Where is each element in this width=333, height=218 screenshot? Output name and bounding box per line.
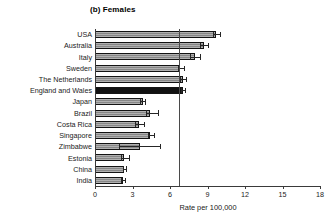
error-bar-cap-high [125, 178, 126, 183]
y-axis-line [95, 29, 96, 187]
error-bar-cap-high [145, 99, 146, 104]
bar-row [95, 96, 320, 107]
error-bar-cap-low [135, 122, 136, 127]
error-bar-cap-low [121, 178, 122, 183]
bar-estonia [95, 154, 124, 161]
error-bar [213, 34, 221, 35]
bar-costa-rica [95, 121, 139, 128]
error-bar-cap-low [181, 88, 182, 93]
error-bar-cap-high [144, 122, 145, 127]
error-bar-cap-low [148, 133, 149, 138]
x-axis-tick [133, 186, 134, 189]
error-bar-cap-low [121, 155, 122, 160]
x-axis-tick-label: 9 [206, 190, 210, 199]
error-bar-cap-high [129, 155, 130, 160]
bar-row [95, 175, 320, 186]
bar-india [95, 177, 123, 184]
y-axis-label: England and Wales [30, 86, 92, 95]
error-bar-cap-high [220, 32, 221, 37]
x-axis-tick [283, 186, 284, 189]
error-bar [200, 45, 208, 46]
error-bar-cap-low [123, 166, 124, 171]
y-axis-label: Brazil [74, 109, 92, 118]
x-axis-tick [95, 186, 96, 189]
bar-row [95, 164, 320, 175]
y-axis-label: Japan [72, 97, 92, 106]
y-axis-label: Australia [64, 41, 92, 50]
y-axis-label: Singapore [59, 131, 92, 140]
error-bar-cap-high [160, 144, 161, 149]
error-bar-cap-low [146, 110, 147, 115]
error-bar-cap-high [200, 54, 201, 59]
bar-row [95, 51, 320, 62]
bar-usa [95, 31, 216, 38]
bar-australia [95, 42, 204, 49]
y-axis-label: Zimbabwe [59, 142, 92, 151]
plot-area [95, 29, 320, 186]
bar-england-and-wales [95, 87, 183, 94]
x-axis-tick [320, 186, 321, 189]
x-axis-tick-label: 15 [279, 190, 287, 199]
bar-row [95, 29, 320, 40]
bar-sweden [95, 65, 180, 72]
bar-row [95, 108, 320, 119]
bar-row [95, 152, 320, 163]
bar-row [95, 85, 320, 96]
x-axis-tick-label: 18 [316, 190, 324, 199]
bar-row [95, 63, 320, 74]
x-axis-tick-label: 12 [241, 190, 249, 199]
error-bar [119, 146, 160, 147]
x-axis-tick [170, 186, 171, 189]
x-axis-title: Rate per 100,000 [95, 203, 321, 212]
y-axis-label: Costa Rica [57, 120, 92, 129]
error-bar-cap-low [200, 43, 201, 48]
bar-row [95, 119, 320, 130]
bar-china [95, 166, 124, 173]
error-bar [121, 158, 129, 159]
bar-japan [95, 98, 143, 105]
chart-container: (b) Females USAAustraliaItalySwedenThe N… [0, 0, 333, 218]
bar-row [95, 40, 320, 51]
bar-row [95, 130, 320, 141]
x-axis-tick-label: 6 [168, 190, 172, 199]
error-bar-cap-high [186, 77, 187, 82]
bar-the-netherlands [95, 76, 183, 83]
y-axis-label: USA [77, 30, 92, 39]
bar-row [95, 141, 320, 152]
bar-singapore [95, 132, 150, 139]
x-axis-tick [208, 186, 209, 189]
error-bar [190, 57, 200, 58]
error-bar-cap-high [154, 133, 155, 138]
y-axis-label: The Netherlands [39, 75, 92, 84]
error-bar-cap-low [190, 54, 191, 59]
reference-line [179, 29, 180, 187]
error-bar-cap-low [213, 32, 214, 37]
error-bar-cap-high [184, 66, 185, 71]
x-axis-tick-label: 3 [131, 190, 135, 199]
error-bar-cap-high [126, 166, 127, 171]
x-axis-tick [245, 186, 246, 189]
error-bar-cap-high [158, 110, 159, 115]
chart-title: (b) Females [90, 5, 136, 14]
y-axis-label: Italy [79, 53, 92, 62]
error-bar-cap-high [185, 88, 186, 93]
y-axis-label: Estonia [68, 154, 92, 163]
y-axis-category-labels: USAAustraliaItalySwedenThe NetherlandsEn… [0, 29, 92, 187]
error-bar-cap-low [119, 144, 120, 149]
error-bar-cap-low [140, 99, 141, 104]
error-bar [146, 113, 157, 114]
error-bar [135, 124, 144, 125]
y-axis-label: Sweden [66, 64, 92, 73]
x-axis-tick-label: 0 [93, 190, 97, 199]
bar-brazil [95, 110, 150, 117]
error-bar-cap-high [208, 43, 209, 48]
error-bar-cap-low [180, 77, 181, 82]
y-axis-label: India [76, 176, 92, 185]
y-axis-label: China [73, 165, 92, 174]
bar-italy [95, 53, 195, 60]
bar-row [95, 74, 320, 85]
